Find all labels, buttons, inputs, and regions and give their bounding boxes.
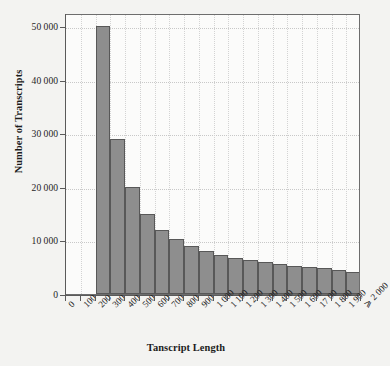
y-axis-tick xyxy=(60,81,65,82)
x-axis-tick xyxy=(168,296,169,301)
y-axis-tick-label: 50 000 xyxy=(32,22,58,32)
y-axis-tick-label: 40 000 xyxy=(32,76,58,86)
x-axis-tick xyxy=(242,296,243,301)
y-axis-tick-label: 0 xyxy=(53,290,58,300)
histogram-bar xyxy=(169,239,184,294)
x-axis-tick xyxy=(154,296,155,301)
x-axis-tick xyxy=(286,296,287,301)
x-axis-tick xyxy=(272,296,273,301)
plot-area xyxy=(65,14,360,295)
x-axis-tick xyxy=(227,296,228,301)
y-axis-tick-label: 20 000 xyxy=(32,183,58,193)
x-axis-tick xyxy=(109,296,110,301)
x-axis-tick xyxy=(80,296,81,301)
histogram-bar xyxy=(96,26,111,294)
y-axis-tick xyxy=(60,134,65,135)
x-axis-tick xyxy=(301,296,302,301)
y-axis-tick xyxy=(60,27,65,28)
x-axis-tick xyxy=(257,296,258,301)
histogram-bar xyxy=(214,255,229,294)
x-axis-tick xyxy=(198,296,199,301)
x-axis-tick xyxy=(360,296,361,301)
histogram-bar xyxy=(199,251,214,294)
x-axis-tick xyxy=(139,296,140,301)
x-axis-tick xyxy=(65,296,66,301)
histogram-bar xyxy=(110,139,125,294)
x-axis-tick xyxy=(331,296,332,301)
y-axis-line xyxy=(65,14,66,295)
x-axis-tick xyxy=(124,296,125,301)
y-axis-tick xyxy=(60,241,65,242)
x-axis-tick-label: 0 xyxy=(67,300,77,310)
histogram-bar xyxy=(125,187,140,294)
y-axis-tick-label: 30 000 xyxy=(32,129,58,139)
histogram-bar xyxy=(184,246,199,294)
x-axis-tick xyxy=(183,296,184,301)
x-axis-tick xyxy=(213,296,214,301)
y-axis-tick-label: 10 000 xyxy=(32,236,58,246)
x-axis-title: Tanscript Length xyxy=(0,342,372,353)
y-axis-title: Number of Transcripts xyxy=(13,42,24,202)
y-axis-tick xyxy=(60,188,65,189)
x-axis-tick xyxy=(316,296,317,301)
x-axis-tick xyxy=(345,296,346,301)
histogram-bar xyxy=(155,230,170,294)
histogram-bar xyxy=(140,214,155,294)
x-axis-tick xyxy=(95,296,96,301)
bars-group xyxy=(66,15,359,294)
